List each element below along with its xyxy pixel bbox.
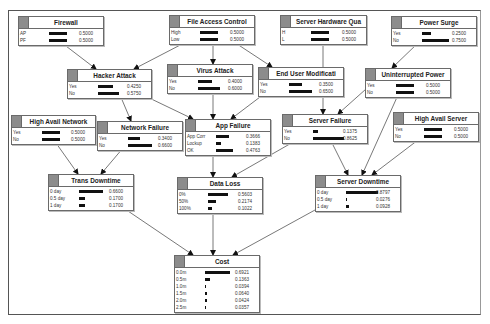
state-row[interactable]: 1 day0.0928 (316, 203, 400, 210)
state-row[interactable]: No0.6000 (168, 85, 252, 92)
node-header[interactable]: Server Downtime (316, 176, 400, 188)
state-row[interactable]: 2.0m0.0424 (175, 297, 259, 304)
node-title: App Failure (197, 120, 269, 131)
state-row[interactable]: Yes0.4000 (168, 78, 252, 85)
probability-bar (49, 39, 67, 42)
state-row[interactable]: 0%0.5603 (178, 191, 262, 198)
state-row[interactable]: Lockup0.1383 (186, 140, 270, 147)
node-header[interactable]: High Avail Server (394, 113, 478, 125)
state-label: Yes (393, 30, 401, 37)
node-header[interactable]: File Access Control (170, 16, 254, 28)
node-header[interactable]: Virus Attack (168, 65, 252, 77)
node-server-hardware-quality[interactable]: Server Hardware Qua H0.5000L0.5000 (280, 15, 367, 45)
probability-bar (128, 144, 152, 147)
node-server-failure[interactable]: Server Failure Yes0.1375No0.8625 (282, 114, 368, 144)
state-label: 0% (179, 191, 186, 198)
node-virus-attack[interactable]: Virus Attack Yes0.4000No0.6000 (167, 64, 253, 94)
node-header[interactable]: Power Surge (392, 17, 476, 29)
state-probability: 0.8797 (376, 189, 390, 196)
state-row[interactable]: 100%0.1022 (178, 205, 262, 212)
node-network-failure[interactable]: Network Failure Yes0.3400No0.6600 (97, 121, 183, 151)
node-server-downtime[interactable]: Server Downtime 0 day0.87970.5 day0.0276… (315, 175, 401, 212)
state-row[interactable]: Low0.5000 (170, 36, 254, 43)
state-row[interactable]: 0 day0.8797 (316, 189, 400, 196)
state-probability: 0.5000 (230, 29, 244, 36)
node-uninterrupted-power[interactable]: Uninterrupted Power Yes0.5000No0.5000 (365, 68, 451, 98)
node-header[interactable]: Firewall (19, 17, 103, 29)
state-row[interactable]: High0.5000 (170, 29, 254, 36)
node-title: File Access Control (181, 16, 253, 27)
state-row[interactable]: No0.8625 (283, 135, 367, 142)
node-states: Yes0.4250No0.5750 (68, 82, 151, 98)
node-power-surge[interactable]: Power Surge Yes0.2500No0.7500 (391, 16, 477, 46)
node-trans-downtime[interactable]: Trans Downtime 0 day0.66000.5 day0.17001… (48, 174, 134, 211)
state-probability: 0.0424 (235, 297, 249, 304)
state-row[interactable]: Yes0.5000 (12, 129, 95, 136)
node-header[interactable]: Trans Downtime (49, 175, 133, 187)
node-header[interactable]: High Avail Network (12, 116, 95, 128)
node-header[interactable]: Hacker Attack (68, 70, 151, 82)
node-file-access-control[interactable]: File Access Control High0.5000Low0.5000 (169, 15, 255, 45)
state-row[interactable]: Yes0.5000 (394, 126, 478, 133)
state-row[interactable]: No0.5000 (366, 89, 450, 96)
probability-bar (208, 193, 228, 196)
probability-bar (205, 285, 206, 288)
state-probability: 0.5000 (79, 30, 93, 37)
state-row[interactable]: Yes0.5000 (366, 82, 450, 89)
node-color-square-icon (259, 68, 269, 79)
state-row[interactable]: 0.5 day0.0276 (316, 196, 400, 203)
node-header[interactable]: Uninterrupted Power (366, 69, 450, 81)
state-probability: 0.4000 (228, 78, 242, 85)
node-hacker-attack[interactable]: Hacker Attack Yes0.4250No0.5750 (67, 69, 152, 99)
state-row[interactable]: OK0.4763 (186, 147, 270, 154)
node-end-user-modification[interactable]: End User Modificati Yes0.3500No0.6500 (258, 67, 344, 97)
node-firewall[interactable]: Firewall AP0.5000PF0.5000 (18, 16, 104, 46)
state-row[interactable]: 2.5m0.0357 (175, 304, 259, 311)
state-row[interactable]: No0.5000 (394, 133, 478, 140)
node-header[interactable]: End User Modificati (259, 68, 343, 80)
state-row[interactable]: 0.0m0.6921 (175, 269, 259, 276)
state-row[interactable]: PF0.5000 (19, 37, 103, 44)
node-header[interactable]: Server Hardware Qua (281, 16, 366, 28)
state-row[interactable]: No0.5000 (12, 136, 95, 143)
node-app-failure[interactable]: App Failure App Corr0.3666Lockup0.1383OK… (185, 119, 271, 156)
state-probability: 0.2500 (452, 30, 466, 37)
state-row[interactable]: 0.5m0.1363 (175, 276, 259, 283)
state-row[interactable]: 1.0m0.0394 (175, 283, 259, 290)
node-data-loss[interactable]: Data Loss 0%0.560350%0.2174100%0.1022 (177, 177, 263, 214)
state-row[interactable]: Yes0.2500 (392, 30, 476, 37)
node-title: Trans Downtime (60, 175, 132, 186)
state-row[interactable]: Yes0.1375 (283, 128, 367, 135)
state-row[interactable]: 50%0.2174 (178, 198, 262, 205)
state-row[interactable]: AP0.5000 (19, 30, 103, 37)
node-cost[interactable]: Cost 0.0m0.69210.5m0.13631.0m0.03941.5m0… (174, 255, 260, 313)
node-header[interactable]: Server Failure (283, 115, 367, 127)
node-title: High Avail Server (405, 113, 477, 124)
state-row[interactable]: No0.6600 (98, 142, 182, 149)
state-row[interactable]: No0.7500 (392, 37, 476, 44)
state-row[interactable]: 1.5m0.0640 (175, 290, 259, 297)
probability-bar (422, 39, 449, 42)
node-high-avail-server[interactable]: High Avail Server Yes0.5000No0.5000 (393, 112, 479, 142)
state-row[interactable]: 1 day0.1700 (49, 202, 133, 209)
node-color-square-icon (49, 175, 59, 186)
state-row[interactable]: Yes0.4250 (68, 83, 151, 90)
state-row[interactable]: 0 day0.6600 (49, 188, 133, 195)
state-probability: 0.1363 (235, 276, 249, 283)
node-states: AP0.5000PF0.5000 (19, 29, 103, 45)
state-row[interactable]: H0.5000 (281, 29, 366, 36)
state-row[interactable]: L0.5000 (281, 36, 366, 43)
node-header[interactable]: Data Loss (178, 178, 262, 190)
node-header[interactable]: App Failure (186, 120, 270, 132)
node-high-avail-network[interactable]: High Avail Network Yes0.5000No0.5000 (11, 115, 96, 145)
state-row[interactable]: No0.5750 (68, 90, 151, 97)
state-row[interactable]: No0.6500 (259, 88, 343, 95)
state-row[interactable]: Yes0.3500 (259, 81, 343, 88)
state-label: 0.5m (176, 276, 186, 283)
state-row[interactable]: 0.5 day0.1700 (49, 195, 133, 202)
state-probability: 0.1022 (238, 205, 252, 212)
node-header[interactable]: Cost (175, 256, 259, 268)
state-row[interactable]: Yes0.3400 (98, 135, 182, 142)
state-row[interactable]: App Corr0.3666 (186, 133, 270, 140)
node-header[interactable]: Network Failure (98, 122, 182, 134)
